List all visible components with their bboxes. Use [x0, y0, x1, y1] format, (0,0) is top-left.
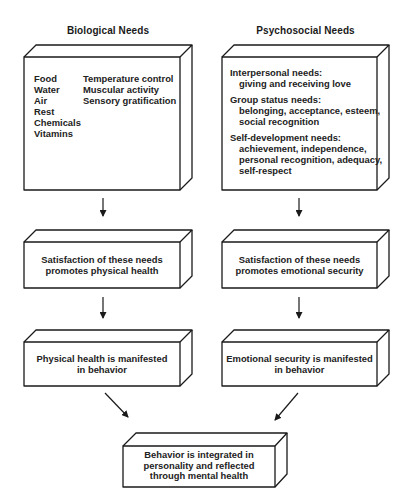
psychosocial-needs-list: Interpersonal needs: giving and receivin…: [230, 67, 382, 181]
need-item: Muscular activity: [83, 84, 176, 95]
text-line: promotes physical health: [24, 265, 180, 276]
physical-health-text: Satisfaction of these needs promotes phy…: [24, 254, 180, 276]
need-item: Sensory gratification: [83, 95, 176, 106]
arrow-psy-3: [275, 393, 298, 420]
biological-needs-heading: Biological Needs: [24, 25, 192, 36]
text-line: Satisfaction of these needs: [222, 254, 377, 265]
need-group-interpersonal: Interpersonal needs: giving and receivin…: [230, 67, 382, 89]
group-title: Interpersonal needs:: [230, 67, 382, 78]
group-item: giving and receiving love: [230, 78, 382, 89]
physical-manifestation-text: Physical health is manifested in behavio…: [24, 353, 180, 375]
group-item: social recognition: [230, 116, 382, 127]
need-item: Food: [34, 73, 81, 84]
text-line: promotes emotional security: [222, 265, 377, 276]
group-title: Group status needs:: [230, 94, 382, 105]
group-title: Self-development needs:: [230, 132, 382, 143]
emotional-security-text: Satisfaction of these needs promotes emo…: [222, 254, 377, 276]
text-line: Satisfaction of these needs: [24, 254, 180, 265]
biological-needs-list-right: Temperature control Muscular activity Se…: [83, 73, 176, 106]
text-line: Emotional security is manifested: [222, 353, 377, 364]
biological-needs-list-left: Food Water Air Rest Chemicals Vitamins: [34, 73, 81, 139]
need-item: Air: [34, 95, 81, 106]
text-line: Behavior is integrated in: [123, 450, 275, 461]
arrow-bio-3: [105, 393, 128, 417]
mental-health-text: Behavior is integrated in personality an…: [123, 450, 275, 482]
need-item: Vitamins: [34, 128, 81, 139]
group-item: personal recognition, adequacy,: [230, 154, 382, 165]
need-group-status: Group status needs: belonging, acceptanc…: [230, 94, 382, 127]
text-line: Physical health is manifested: [24, 353, 180, 364]
psychosocial-needs-heading: Psychosocial Needs: [222, 25, 389, 36]
group-item: belonging, acceptance, esteem,: [230, 105, 382, 116]
emotional-manifestation-text: Emotional security is manifested in beha…: [222, 353, 377, 375]
need-item: Temperature control: [83, 73, 176, 84]
need-item: Water: [34, 84, 81, 95]
text-line: in behavior: [24, 364, 180, 375]
need-item: Rest: [34, 106, 81, 117]
text-line: through mental health: [123, 471, 275, 482]
group-item: self-respect: [230, 165, 382, 176]
group-item: achievement, independence,: [230, 143, 382, 154]
need-item: Chemicals: [34, 117, 81, 128]
text-line: in behavior: [222, 364, 377, 375]
need-group-self-development: Self-development needs: achievement, ind…: [230, 132, 382, 176]
